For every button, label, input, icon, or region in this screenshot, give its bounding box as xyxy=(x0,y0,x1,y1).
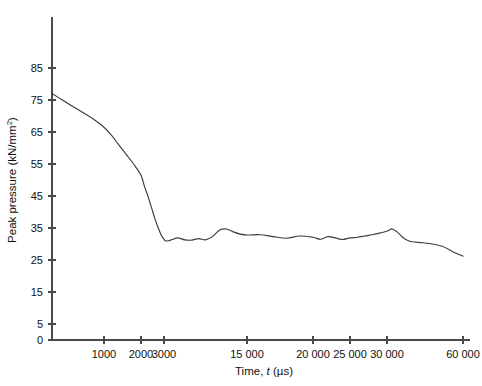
x-tick-label: 25 000 xyxy=(333,348,367,360)
y-tick-label: 15 xyxy=(31,286,43,298)
y-axis-title: Peak pressure (kN/mm2) xyxy=(5,117,19,243)
x-tick-label: 20 000 xyxy=(296,348,330,360)
y-tick-label: 65 xyxy=(31,126,43,138)
y-tick-label: 75 xyxy=(31,94,43,106)
y-tick-label: 55 xyxy=(31,158,43,170)
x-tick-label: 30 000 xyxy=(370,348,404,360)
y-tick-label: 5 xyxy=(37,318,43,330)
chart-background xyxy=(0,0,482,386)
x-tick-label: 15 000 xyxy=(230,348,264,360)
y-tick-label: 45 xyxy=(31,190,43,202)
y-tick-label: 85 xyxy=(31,62,43,74)
x-tick-label: 60 000 xyxy=(446,348,480,360)
x-tick-label: 2000 xyxy=(129,348,153,360)
x-tick-label: 1000 xyxy=(92,348,116,360)
y-tick-label: 35 xyxy=(31,222,43,234)
x-tick-label: 3000 xyxy=(152,348,176,360)
y-tick-label: 0 xyxy=(37,334,43,346)
y-tick-label: 25 xyxy=(31,254,43,266)
x-axis-title: Time, t (µs) xyxy=(235,365,293,377)
peak-pressure-chart: 051525354555657585 10002000300015 00020 … xyxy=(0,0,482,386)
